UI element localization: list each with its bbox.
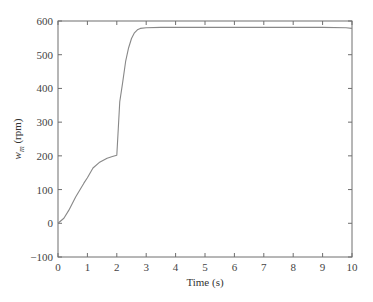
x-axis-tick-labels: 012345678910 [55, 261, 358, 273]
x-tick-label: 4 [173, 261, 179, 273]
y-axis-tick-labels: −1000100200300400500600 [30, 15, 53, 263]
y-tick-label: 100 [37, 184, 54, 196]
plot-area [58, 21, 352, 257]
y-tick-label: 500 [37, 49, 54, 61]
x-tick-label: 2 [114, 261, 120, 273]
x-tick-label: 7 [261, 261, 267, 273]
line-chart: 012345678910 −1000100200300400500600 Tim… [0, 0, 373, 302]
x-tick-label: 3 [143, 261, 149, 273]
x-tick-label: 0 [55, 261, 61, 273]
x-tick-label: 6 [232, 261, 238, 273]
y-tick-label: 0 [48, 217, 54, 229]
x-tick-label: 8 [290, 261, 296, 273]
x-tick-label: 1 [85, 261, 91, 273]
y-axis-label-unit: (rpm) [11, 118, 24, 146]
axes-box [58, 21, 352, 257]
y-tick-label: 300 [37, 116, 54, 128]
y-tick-label: 200 [37, 150, 54, 162]
y-tick-label: −100 [30, 251, 53, 263]
x-tick-label: 9 [320, 261, 326, 273]
y-tick-label: 600 [37, 15, 54, 27]
x-tick-label: 10 [347, 261, 359, 273]
y-axis-label: wm (rpm) [11, 118, 26, 159]
x-tick-label: 5 [202, 261, 208, 273]
x-axis-label: Time (s) [186, 276, 224, 289]
y-tick-label: 400 [37, 82, 54, 94]
